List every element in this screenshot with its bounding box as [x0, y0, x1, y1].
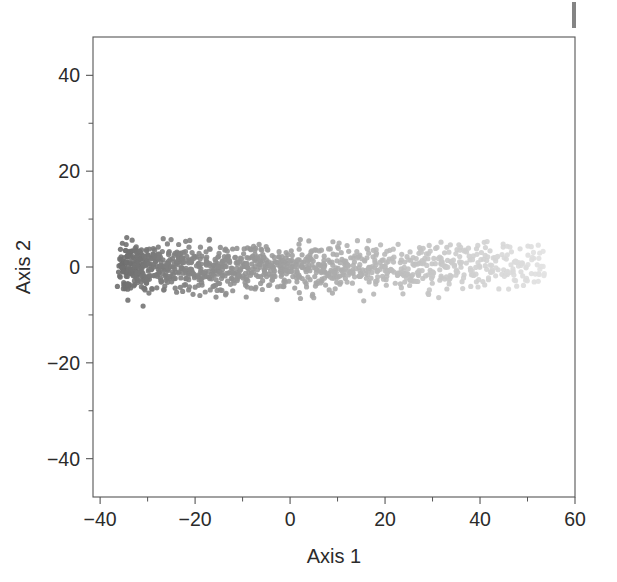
data-point	[504, 257, 509, 262]
data-point	[234, 246, 239, 251]
data-point	[311, 295, 316, 300]
data-point	[540, 249, 545, 254]
data-point	[297, 290, 302, 295]
data-point	[118, 247, 123, 252]
data-point	[346, 263, 351, 268]
data-point	[322, 254, 327, 259]
data-point	[339, 250, 344, 255]
data-point	[215, 255, 220, 260]
data-point	[295, 257, 300, 262]
data-point	[461, 275, 466, 280]
data-point	[368, 276, 373, 281]
data-point	[150, 287, 155, 292]
y-tick-label: 0	[69, 256, 80, 278]
data-point	[260, 287, 265, 292]
data-point	[338, 280, 343, 285]
data-point	[434, 245, 439, 250]
data-point	[425, 256, 430, 261]
x-tick-label: 60	[564, 508, 586, 530]
data-point	[215, 288, 220, 293]
data-point	[357, 253, 362, 258]
data-point	[364, 246, 369, 251]
x-tick-label: 20	[374, 508, 396, 530]
data-point	[186, 245, 191, 250]
data-point	[124, 235, 129, 240]
data-point	[267, 282, 272, 287]
data-point	[281, 284, 286, 289]
data-point	[296, 242, 301, 247]
data-point	[200, 282, 205, 287]
data-point	[134, 244, 139, 249]
data-point	[286, 279, 291, 284]
data-point	[366, 238, 371, 243]
x-tick-label: −40	[84, 508, 117, 530]
data-point	[493, 273, 498, 278]
data-point	[457, 254, 462, 259]
data-point	[536, 243, 541, 248]
data-point	[483, 245, 488, 250]
data-point	[333, 286, 338, 291]
data-point	[378, 242, 383, 247]
data-point	[396, 242, 401, 247]
data-point	[477, 265, 482, 270]
data-point	[224, 264, 229, 269]
data-point	[227, 258, 232, 263]
data-point	[298, 237, 303, 242]
data-point	[125, 282, 130, 287]
data-point	[525, 262, 530, 267]
axis-tick-labels: −40−20020406040200−20−40	[47, 64, 586, 530]
x-tick-label: −20	[179, 508, 212, 530]
data-point	[391, 259, 396, 264]
data-point	[352, 274, 357, 279]
data-point	[488, 263, 493, 268]
data-point	[355, 238, 360, 243]
data-point	[289, 248, 294, 253]
x-tick-label: 40	[469, 508, 491, 530]
data-point	[176, 242, 181, 247]
data-points	[115, 235, 547, 309]
data-point	[271, 266, 276, 271]
data-point	[455, 270, 460, 275]
data-point	[391, 247, 396, 252]
data-point	[475, 284, 480, 289]
data-point	[333, 265, 338, 270]
data-point	[448, 273, 453, 278]
data-point	[531, 250, 536, 255]
data-point	[323, 282, 328, 287]
data-point	[213, 294, 218, 299]
data-point	[230, 270, 235, 275]
data-point	[537, 272, 542, 277]
y-tick-label: −20	[47, 352, 80, 374]
data-point	[115, 284, 120, 289]
data-point	[244, 261, 249, 266]
data-point	[330, 239, 335, 244]
data-point	[371, 291, 376, 296]
data-point	[252, 247, 257, 252]
data-point	[493, 265, 498, 270]
data-point	[457, 248, 462, 253]
data-point	[304, 284, 309, 289]
data-point	[393, 281, 398, 286]
data-point	[384, 277, 389, 282]
data-point	[413, 279, 418, 284]
data-point	[391, 255, 396, 260]
data-point	[468, 284, 473, 289]
data-point	[172, 276, 177, 281]
data-point	[298, 296, 303, 301]
data-point	[190, 292, 195, 297]
data-point	[154, 285, 159, 290]
data-point	[307, 277, 312, 282]
data-point	[525, 278, 530, 283]
data-point	[272, 274, 277, 279]
scatter-plot-canvas: −40−20020406040200−20−40Axis 1Axis 2	[0, 0, 617, 582]
data-point	[357, 288, 362, 293]
data-point	[239, 256, 244, 261]
data-point	[437, 267, 442, 272]
data-point	[512, 277, 517, 282]
data-point	[344, 243, 349, 248]
data-point	[372, 257, 377, 262]
data-point	[187, 284, 192, 289]
data-point	[346, 249, 351, 254]
data-point	[187, 238, 192, 243]
data-point	[414, 256, 419, 261]
